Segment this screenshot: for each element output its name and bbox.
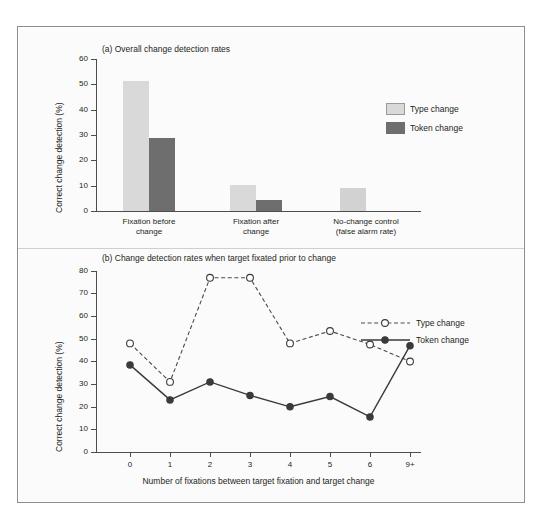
series-type-change-markers xyxy=(127,274,414,385)
panel-b-legend-glyphs xyxy=(361,320,410,344)
panel-b-plot xyxy=(18,27,524,502)
series-type-change-line xyxy=(130,278,410,382)
panel-b-legend-label-type-change: Type change xyxy=(416,318,465,328)
legend-marker-token-change xyxy=(382,337,388,343)
legend-marker-type-change xyxy=(382,320,389,327)
panel-b-legend-label-token-change: Token change xyxy=(416,335,469,345)
figure-frame: (a) Overall change detection rates Corre… xyxy=(17,26,525,503)
